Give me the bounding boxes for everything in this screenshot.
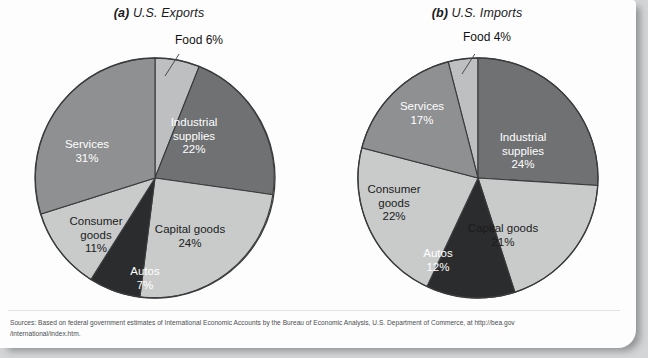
slice-label-line2: 12% <box>423 261 452 275</box>
slice-label-line2: goods <box>367 197 420 211</box>
slice-label-line1: Capital goods <box>155 223 225 235</box>
callout-food-exports: Food 6% <box>175 33 223 47</box>
slice-label-line2: 24% <box>155 237 225 251</box>
chart-title-imports: (b) U.S. Imports <box>318 6 636 20</box>
chart-title-text-exports: U.S. Exports <box>133 6 204 20</box>
source-note: Sources: Based on federal government est… <box>10 318 614 339</box>
slice-label-line2: 21% <box>468 236 538 250</box>
slice-label-line3: 22% <box>171 143 218 157</box>
slice-label-consumer-goods-imports: Consumer goods 22% <box>367 183 420 224</box>
slice-label-industrial-supplies-imports: Industrial supplies 24% <box>500 131 547 172</box>
slice-label-autos-exports: Autos 7% <box>130 265 159 292</box>
chart-panel-exports: (a) U.S. Exports <box>0 0 318 312</box>
slice-label-services-exports: Services 31% <box>65 138 109 165</box>
slice-label-line2: supplies <box>171 130 218 144</box>
chart-title-text-imports: U.S. Imports <box>452 6 523 20</box>
slice-label-line2: 7% <box>130 279 159 293</box>
slice-label-line1: Consumer <box>69 215 122 227</box>
chart-title-prefix-imports: (b) <box>432 6 448 20</box>
slice-label-line1: Autos <box>423 247 452 259</box>
footer-divider <box>8 310 620 311</box>
slice-label-line1: Industrial <box>171 116 218 128</box>
slice-label-industrial-supplies-exports: Industrial supplies 22% <box>171 116 218 157</box>
slice-label-line1: Capital goods <box>468 222 538 234</box>
slice-label-line1: Services <box>65 138 109 150</box>
slice-label-line2: 17% <box>400 114 444 128</box>
slice-label-line1: Services <box>400 100 444 112</box>
slice-label-autos-imports: Autos 12% <box>423 247 452 274</box>
slice-label-services-imports: Services 17% <box>400 100 444 127</box>
slice-label-line3: 24% <box>500 158 547 172</box>
pie-imports <box>354 54 602 302</box>
slice-label-line3: 22% <box>367 210 420 224</box>
slice-label-line2: 31% <box>65 152 109 166</box>
charts-area: (a) U.S. Exports <box>0 0 636 312</box>
figure-card: (a) U.S. Exports <box>0 0 636 348</box>
source-note-line-1: Sources: Based on federal government est… <box>10 318 614 329</box>
slice-label-consumer-goods-exports: Consumer goods 11% <box>69 215 122 256</box>
slice-label-line1: Autos <box>130 265 159 277</box>
source-note-line-2: /international/index.htm. <box>10 329 614 340</box>
slice-label-capital-goods-imports: Capital goods 21% <box>468 222 538 249</box>
slice-label-line1: Industrial <box>500 131 547 143</box>
pie-svg-imports <box>354 54 602 302</box>
slice-label-line3: 11% <box>69 242 122 256</box>
callout-food-imports: Food 4% <box>463 30 511 44</box>
chart-panel-imports: (b) U.S. Imports <box>318 0 636 312</box>
slice-label-line1: Consumer <box>367 183 420 195</box>
slice-label-capital-goods-exports: Capital goods 24% <box>155 223 225 250</box>
chart-title-exports: (a) U.S. Exports <box>0 6 318 20</box>
figure-page: (a) U.S. Exports <box>0 0 648 358</box>
slice-label-line2: supplies <box>500 145 547 159</box>
chart-title-prefix-exports: (a) <box>114 6 130 20</box>
slice-label-line2: goods <box>69 229 122 243</box>
